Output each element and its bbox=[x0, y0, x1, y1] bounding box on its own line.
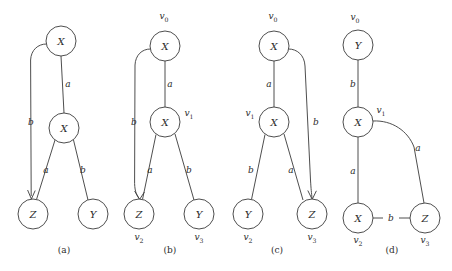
node-d-X1: X bbox=[343, 107, 373, 137]
edge-label-a-e3: b bbox=[80, 165, 86, 175]
node-b-X1: X bbox=[150, 107, 180, 137]
node-label: X bbox=[269, 41, 278, 52]
vertex-label-c-v1: v1 bbox=[245, 108, 254, 119]
edge-label-d-e1: a bbox=[350, 166, 355, 176]
edge-label-c-e0: a bbox=[266, 79, 271, 89]
node-a-X0: X bbox=[46, 26, 76, 56]
node-label: Z bbox=[421, 213, 430, 224]
vertex-label-c-v0: v0 bbox=[268, 11, 277, 22]
edge-label-a-e1: b bbox=[28, 117, 34, 127]
node-a-Y: Y bbox=[78, 199, 108, 229]
panel-caption-a: (a) bbox=[58, 245, 70, 255]
node-a-X1: X bbox=[49, 113, 79, 143]
node-label: X bbox=[59, 123, 68, 134]
edge-a-X0-to-X1-a bbox=[61, 56, 64, 113]
edge-label-a-e0: a bbox=[65, 79, 70, 89]
vertex-label-d-v2: v2 bbox=[353, 235, 362, 246]
panel-a: a b a b X X Z Y (a) bbox=[18, 26, 108, 255]
edge-b-X0-to-Z-b bbox=[135, 49, 151, 199]
edge-label-c-e3: a bbox=[288, 165, 293, 175]
vertex-label-d-v3: v3 bbox=[420, 235, 429, 246]
edge-label-b-e2: a bbox=[147, 165, 152, 175]
node-label: Z bbox=[308, 209, 317, 220]
edge-label-d-e3: b bbox=[388, 213, 394, 223]
panel-caption-c: (c) bbox=[271, 245, 283, 255]
vertex-label-b-v0: v0 bbox=[159, 11, 168, 22]
vertex-label-b-v3: v3 bbox=[194, 232, 203, 243]
node-label: Z bbox=[135, 209, 144, 220]
node-c-X0: X bbox=[259, 31, 289, 61]
vertex-label-b-v1: v1 bbox=[184, 108, 193, 119]
edge-d-X1-to-Z-a bbox=[373, 121, 424, 203]
vertex-label-c-v2: v2 bbox=[243, 232, 252, 243]
panel-c: a b b a X X Y Z v0 v1 v2 v3 bbox=[233, 11, 327, 255]
node-d-Z: Z bbox=[410, 203, 440, 233]
edge-label-b-e1: b bbox=[131, 117, 137, 127]
edge-label-b-e0: a bbox=[167, 79, 172, 89]
edge-c-X0-to-Z-b bbox=[289, 49, 313, 198]
vertex-label-d-v1: v1 bbox=[376, 105, 385, 116]
edge-label-a-e2: a bbox=[43, 165, 48, 175]
node-label: X bbox=[56, 36, 65, 47]
vertex-label-d-v0: v0 bbox=[350, 12, 359, 23]
node-b-Z: Z bbox=[124, 199, 154, 229]
vertex-label-c-v3: v3 bbox=[307, 232, 316, 243]
panel-d: b a a b Y X X Z v0 v1 v2 v3 bbox=[343, 12, 440, 255]
edge-label-b-e3: b bbox=[186, 165, 192, 175]
panel-caption-d: (d) bbox=[386, 245, 399, 255]
node-a-Z: Z bbox=[18, 199, 48, 229]
node-label: X bbox=[160, 117, 169, 128]
node-label: X bbox=[353, 213, 362, 224]
node-label: X bbox=[353, 117, 362, 128]
node-c-X1: X bbox=[259, 107, 289, 137]
graph-figure-canvas: a b a b X X Z Y (a) bbox=[0, 0, 452, 271]
node-b-X0: X bbox=[150, 31, 180, 61]
vertex-label-b-v2: v2 bbox=[134, 232, 143, 243]
node-c-Y: Y bbox=[233, 199, 263, 229]
panel-b: a b a b X X Z Y v0 v1 v2 v3 bbox=[124, 11, 214, 255]
node-b-Y: Y bbox=[184, 199, 214, 229]
figure-root: a b a b X X Z Y (a) bbox=[0, 0, 452, 271]
node-label: X bbox=[269, 117, 278, 128]
edge-label-c-e1: b bbox=[313, 117, 319, 127]
node-label: Z bbox=[29, 209, 38, 220]
panel-caption-b: (b) bbox=[164, 245, 177, 255]
node-c-Z: Z bbox=[297, 199, 327, 229]
edge-label-c-e2: b bbox=[248, 165, 254, 175]
node-d-Y0: Y bbox=[343, 30, 373, 60]
node-d-X2: X bbox=[343, 203, 373, 233]
node-label: X bbox=[160, 41, 169, 52]
edge-label-d-e0: b bbox=[350, 79, 356, 89]
edge-label-d-e2: a bbox=[415, 143, 420, 153]
